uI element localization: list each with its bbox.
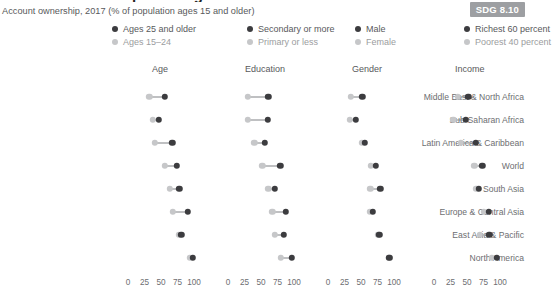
- legend-item[interactable]: Primary or less: [247, 35, 367, 48]
- data-point-dark[interactable]: [472, 140, 478, 146]
- chart-subtitle: Account ownership, 2017 (% of population…: [2, 6, 254, 16]
- x-tick-label: 25: [446, 278, 455, 287]
- legend-label: Primary or less: [258, 37, 318, 47]
- data-point-dark[interactable]: [486, 209, 492, 215]
- legend-label: Ages 25 and older: [123, 24, 196, 34]
- legend-dot-icon: [247, 39, 253, 45]
- panel-income: 0255075100: [0, 56, 528, 293]
- data-point-dark[interactable]: [486, 232, 492, 238]
- legend-label: Poorest 40 percent: [475, 37, 551, 47]
- legend-item[interactable]: Ages 25 and older: [112, 22, 232, 35]
- x-tick-label: 75: [479, 278, 488, 287]
- legend-dot-icon: [112, 39, 118, 45]
- sdg-badge: SDG 8.10: [470, 2, 525, 17]
- data-point-light[interactable]: [455, 94, 461, 100]
- legend-dot-icon: [355, 39, 361, 45]
- legend-dot-icon: [355, 26, 361, 32]
- x-tick-label: 0: [432, 278, 437, 287]
- data-point-dark[interactable]: [465, 94, 471, 100]
- legend-item[interactable]: Poorest 40 percent: [464, 35, 556, 48]
- legend-group-1: Secondary or morePrimary or less: [247, 22, 367, 48]
- data-point-light[interactable]: [450, 117, 456, 123]
- chart-legend: Ages 25 and olderAges 15–24Secondary or …: [112, 22, 528, 50]
- x-tick-label: 100: [493, 278, 507, 287]
- legend-label: Male: [366, 24, 386, 34]
- legend-group-0: Ages 25 and olderAges 15–24: [112, 22, 232, 48]
- x-tick-label: 50: [462, 278, 471, 287]
- data-point-dark[interactable]: [479, 163, 485, 169]
- legend-item[interactable]: Male: [355, 22, 475, 35]
- legend-item[interactable]: Ages 15–24: [112, 35, 232, 48]
- data-point-dark[interactable]: [493, 255, 499, 261]
- legend-item[interactable]: Richest 60 percent: [464, 22, 556, 35]
- legend-dot-icon: [112, 26, 118, 32]
- legend-dot-icon: [464, 26, 470, 32]
- cut-off-title: Account ownership is rising: [0, 0, 528, 2]
- legend-label: Secondary or more: [258, 24, 335, 34]
- legend-label: Female: [366, 37, 396, 47]
- data-point-dark[interactable]: [476, 186, 482, 192]
- legend-label: Ages 15–24: [123, 37, 171, 47]
- legend-dot-icon: [464, 39, 470, 45]
- data-point-light[interactable]: [458, 140, 464, 146]
- legend-group-3: Richest 60 percentPoorest 40 percent: [464, 22, 556, 48]
- data-point-light[interactable]: [471, 163, 477, 169]
- data-point-dark[interactable]: [462, 117, 468, 123]
- legend-dot-icon: [247, 26, 253, 32]
- legend-group-2: MaleFemale: [355, 22, 475, 48]
- chart-plot-area: Middle East & North AfricaSub-Saharan Af…: [0, 56, 528, 293]
- legend-label: Richest 60 percent: [475, 24, 550, 34]
- legend-item[interactable]: Female: [355, 35, 475, 48]
- data-point-light[interactable]: [476, 232, 482, 238]
- legend-item[interactable]: Secondary or more: [247, 22, 367, 35]
- cut-off-title-text: Account ownership is rising: [0, 0, 528, 2]
